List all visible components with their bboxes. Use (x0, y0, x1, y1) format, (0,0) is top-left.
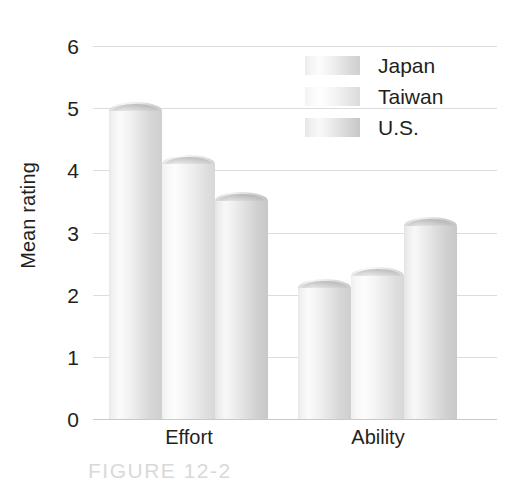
x-tick-label-effort: Effort (165, 426, 212, 449)
bar-ability-taiwan[interactable] (351, 267, 404, 419)
bar-body (162, 164, 215, 419)
bar-chart-figure: Mean rating 6 5 4 3 2 1 0 (0, 0, 507, 479)
bar-body (351, 276, 404, 419)
legend-label-japan: Japan (378, 54, 435, 78)
y-tick-label-3: 3 (67, 223, 79, 244)
gridline-0-baseline (93, 419, 497, 420)
bar-body (215, 201, 268, 419)
y-tick-label-5: 5 (67, 98, 79, 119)
y-axis-title: Mean rating (6, 0, 50, 430)
ytick-wrap-0: 0 (93, 419, 94, 420)
legend-item-us[interactable]: U.S. (305, 112, 443, 143)
legend-item-japan[interactable]: Japan (305, 50, 443, 81)
y-axis-title-label: Mean rating (17, 162, 40, 269)
taiwan-swatch-icon (305, 87, 360, 106)
ytick-wrap-1: 1 (93, 357, 94, 358)
bar-effort-taiwan[interactable] (162, 155, 215, 419)
legend: Japan Taiwan U.S. (305, 50, 443, 143)
bar-effort-us[interactable] (215, 192, 268, 419)
y-tick-label-4: 4 (67, 160, 79, 181)
us-swatch-icon (305, 118, 360, 137)
y-tick-label-0: 0 (67, 409, 79, 430)
ytick-wrap-2: 2 (93, 295, 94, 296)
legend-label-taiwan: Taiwan (378, 85, 443, 109)
bar-body (404, 226, 457, 419)
y-tick-label-2: 2 (67, 285, 79, 306)
bar-body (298, 288, 351, 419)
y-tick-label-1: 1 (67, 347, 79, 368)
japan-swatch-icon (305, 56, 360, 75)
gridline-6 (93, 46, 497, 47)
ytick-wrap-3: 3 (93, 233, 94, 234)
bar-body (109, 111, 162, 419)
x-tick-label-ability: Ability (351, 426, 404, 449)
y-tick-label-6: 6 (67, 36, 79, 57)
ytick-wrap-4: 4 (93, 170, 94, 171)
bar-ability-japan[interactable] (298, 279, 351, 419)
figure-caption: FIGURE 12-2 (88, 459, 232, 479)
legend-label-us: U.S. (378, 116, 419, 140)
bar-ability-us[interactable] (404, 217, 457, 419)
legend-item-taiwan[interactable]: Taiwan (305, 81, 443, 112)
ytick-wrap-6: 6 (93, 46, 94, 47)
bar-effort-japan[interactable] (109, 102, 162, 419)
ytick-wrap-5: 5 (93, 108, 94, 109)
